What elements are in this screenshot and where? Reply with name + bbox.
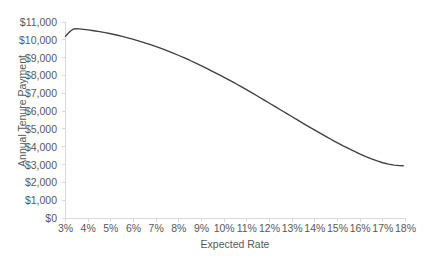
axis-tick-marks xyxy=(62,22,406,222)
series-line-0 xyxy=(66,29,404,166)
data-series-group xyxy=(66,29,404,166)
chart-container: Annual Tenure Payment $0$1,000$2,000$3,0… xyxy=(0,0,423,260)
plot-area xyxy=(0,0,423,260)
axis-lines xyxy=(66,22,406,218)
